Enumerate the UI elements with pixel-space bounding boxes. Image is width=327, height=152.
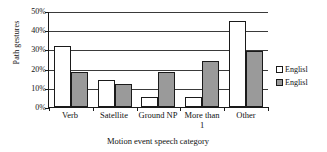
x-tick-label-line: Satellite [92,110,136,120]
x-tick-label: Satellite [92,110,136,138]
bar [115,84,132,107]
y-axis-title: Path gestures [12,3,21,83]
bar-group [224,12,268,107]
x-tick-label-line: Verb [48,110,92,120]
y-tick-label: 10% [22,85,46,93]
bar-group [137,12,181,107]
legend-swatch-icon [276,66,283,73]
y-tick-label: 0% [22,104,46,112]
bar [185,97,202,107]
bar [202,61,219,107]
x-tick-label-line: Other [224,110,268,120]
x-axis-tick-labels: VerbSatelliteGround NPMore than1Other [48,110,268,138]
bar-group [49,12,93,107]
y-tick-label: 30% [22,46,46,54]
x-tick-label: Ground NP [136,110,180,138]
y-tick-label: 50% [22,8,46,16]
x-tick-label: Verb [48,110,92,138]
x-axis-title: Motion event speech category [48,136,268,146]
bar [229,21,246,107]
bar [141,97,158,107]
bar [158,72,175,107]
y-tick-label: 40% [22,27,46,35]
y-axis-tick-labels: 0%10%20%30%40%50% [22,12,46,108]
bar-chart-figure: Path gestures 0%10%20%30%40%50% VerbSate… [0,0,327,152]
legend-item[interactable]: Englisl [276,63,327,76]
plot-area [48,12,268,108]
x-tickmark [268,107,269,111]
x-tick-label-line: 1 [180,120,224,130]
legend: EnglislEnglisl [276,63,327,89]
bar-groups [49,12,268,107]
bar-group [180,12,224,107]
bar [54,46,71,107]
y-tick-label: 20% [22,66,46,74]
bar [71,72,88,107]
legend-item[interactable]: Englisl [276,76,327,89]
legend-label: Englisl [285,78,308,87]
legend-swatch-icon [276,79,283,86]
legend-label: Englisl [285,65,308,74]
bar [98,80,115,107]
x-tick-label: Other [224,110,268,138]
x-tick-label: More than1 [180,110,224,138]
x-tick-label-line: More than [180,110,224,120]
bar [246,51,263,107]
bar-group [93,12,137,107]
x-tick-label-line: Ground NP [136,110,180,120]
